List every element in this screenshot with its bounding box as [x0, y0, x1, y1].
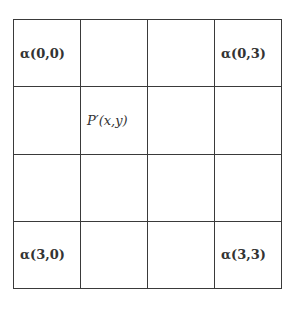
grid-row-1: P′(x,y) [14, 87, 282, 154]
grid-row-3: α(3,0) α(3,3) [14, 221, 282, 288]
cell-0-1 [81, 20, 148, 87]
corner-label-alpha-0-0: α(0,0) [14, 46, 80, 61]
cell-2-1 [81, 154, 148, 221]
cell-1-0 [14, 87, 81, 154]
cell-1-3 [215, 87, 282, 154]
corner-label-alpha-3-0: α(3,0) [14, 247, 80, 262]
cell-0-0: α(0,0) [14, 20, 81, 87]
point-label-p-prime: P′(x,y) [81, 113, 147, 128]
cell-2-2 [148, 154, 215, 221]
cell-3-0: α(3,0) [14, 221, 81, 288]
corner-label-alpha-3-3: α(3,3) [215, 247, 281, 262]
grid-row-0: α(0,0) α(0,3) [14, 20, 282, 87]
cell-3-3: α(3,3) [215, 221, 282, 288]
cell-2-3 [215, 154, 282, 221]
cell-3-1 [81, 221, 148, 288]
cell-3-2 [148, 221, 215, 288]
cell-1-2 [148, 87, 215, 154]
corner-label-alpha-0-3: α(0,3) [215, 46, 281, 61]
cell-0-2 [148, 20, 215, 87]
grid-row-2 [14, 154, 282, 221]
cell-0-3: α(0,3) [215, 20, 282, 87]
grid-table: α(0,0) α(0,3) P′(x,y) α(3,0) α(3,3) [13, 19, 282, 289]
cell-2-0 [14, 154, 81, 221]
cell-1-1: P′(x,y) [81, 87, 148, 154]
